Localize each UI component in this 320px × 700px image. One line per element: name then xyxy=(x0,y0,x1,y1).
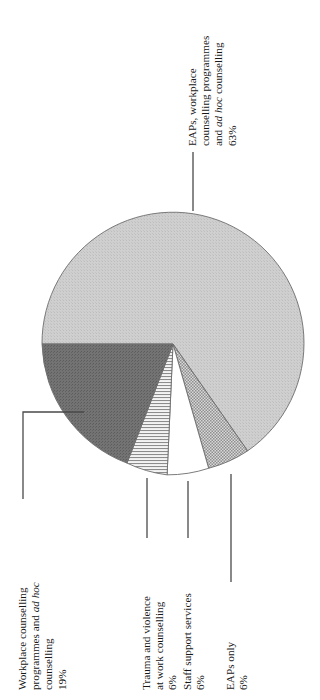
label-line: counselling programmes xyxy=(199,36,212,146)
label-line: Staff support services xyxy=(181,593,194,690)
label-line: programmes and ad hoc xyxy=(29,582,42,690)
label-staff-support-services: Staff support services 6% xyxy=(181,593,207,690)
label-percent: 19% xyxy=(56,582,69,690)
label-percent: 6% xyxy=(237,642,250,690)
label-eaps-only: EAPs only 6% xyxy=(224,642,250,690)
label-trauma-violence: Trauma and violence at work counselling … xyxy=(140,596,180,690)
label-eaps-workplace-adhoc: EAPs, workplace counselling programmes a… xyxy=(186,36,239,146)
pie-chart-figure: EAPs, workplace counselling programmes a… xyxy=(0,0,320,700)
label-line: EAPs only xyxy=(224,642,237,690)
label-percent: 6% xyxy=(166,596,179,690)
label-line: counselling xyxy=(42,582,55,690)
label-percent: 6% xyxy=(194,593,207,690)
label-line: EAPs, workplace xyxy=(186,36,199,146)
label-line: Workplace counselling xyxy=(16,582,29,690)
label-percent: 63% xyxy=(226,36,239,146)
label-line: at work counselling xyxy=(153,596,166,690)
label-line: Trauma and violence xyxy=(140,596,153,690)
label-workplace-counselling: Workplace counselling programmes and ad … xyxy=(16,582,69,690)
label-line: and ad hoc counselling xyxy=(212,36,225,146)
